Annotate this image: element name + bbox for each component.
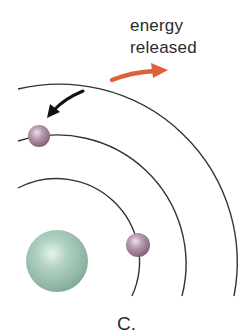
energy-release-arrow xyxy=(112,63,168,80)
bohr-atom-diagram: energy released C. xyxy=(0,0,245,336)
electron-transition-arrow xyxy=(47,91,83,118)
electron-inner-orbit xyxy=(126,233,150,257)
diagram-graphic xyxy=(0,0,245,336)
nucleus xyxy=(26,230,88,292)
energy-label-line1: energy xyxy=(130,15,197,37)
panel-label: C. xyxy=(117,313,136,335)
energy-released-label: energy released xyxy=(130,15,197,59)
electron-middle-orbit xyxy=(28,125,50,147)
energy-label-line2: released xyxy=(130,37,197,59)
